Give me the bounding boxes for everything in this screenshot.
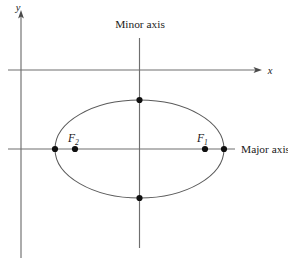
major-axis-label: Major axis <box>241 143 288 155</box>
y-axis-label: y <box>15 2 21 13</box>
vertex-right-point <box>221 146 227 152</box>
ellipse-diagram-canvas: Minor axis Major axis y x F2 F1 <box>0 0 288 269</box>
focus-left-point <box>72 146 78 152</box>
focus-right-point <box>202 146 208 152</box>
focus-left-label: F2 <box>67 132 79 147</box>
focus-left-subscript: 2 <box>75 138 79 147</box>
co-vertex-top-point <box>136 97 142 103</box>
vertex-left-point <box>52 146 58 152</box>
focus-right-subscript: 1 <box>204 138 208 147</box>
co-vertex-bottom-point <box>136 195 142 201</box>
focus-right-label: F1 <box>196 132 208 147</box>
minor-axis-label: Minor axis <box>115 18 165 30</box>
x-axis-label: x <box>267 65 273 76</box>
ellipse-figure: Minor axis Major axis y x F2 F1 <box>0 0 288 269</box>
